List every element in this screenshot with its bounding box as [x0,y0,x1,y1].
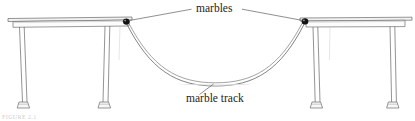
marble-left-highlight [124,20,126,22]
marbles-label: marbles [196,3,232,15]
marble-right-highlight [303,20,305,22]
right-table-apron [306,20,405,27]
right-table-foot-front-left [310,102,322,108]
left-table-foot-front-left [17,102,29,108]
right-table-foot-front-right [387,102,399,108]
marble-track-label: marble track [186,93,244,105]
left-table-foot-front-right [98,102,111,108]
marble-left [123,19,129,25]
left-table-apron [13,20,129,27]
figure-caption-partial: FIGURE 2.1 [2,114,122,121]
marble-right [302,19,308,25]
